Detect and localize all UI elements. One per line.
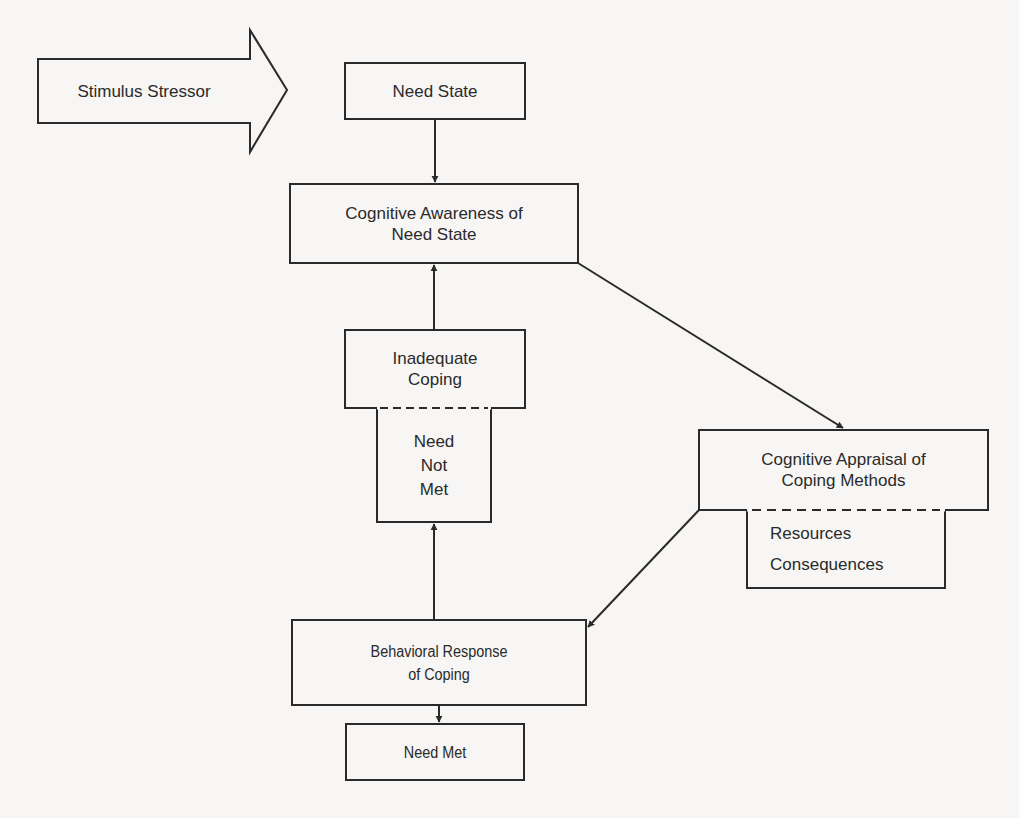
inadequate-coping-label-line-1: Inadequate bbox=[392, 348, 477, 369]
need-state-label-line-1: Need State bbox=[392, 81, 477, 102]
stimulus-label: Stimulus Stressor bbox=[38, 59, 250, 123]
need-not-met-label-line-1: Need bbox=[414, 430, 455, 454]
cognitive-awareness-label-line-1: Cognitive Awareness of bbox=[345, 203, 522, 224]
need-met-label: Need Met bbox=[355, 724, 515, 780]
inadequate-coping-label-line-2: Coping bbox=[408, 369, 462, 390]
need-not-met-label-line-3: Met bbox=[420, 478, 448, 502]
behavioral-response-label-line-2: of Coping bbox=[408, 663, 470, 686]
need-not-met-label-line-2: Not bbox=[421, 454, 447, 478]
stimulus-label-line-1: Stimulus Stressor bbox=[77, 81, 210, 102]
cognitive-awareness-label: Cognitive Awareness of Need State bbox=[290, 184, 578, 263]
consequences-label: Consequences bbox=[770, 549, 883, 580]
inadequate-coping-label: Inadequate Coping bbox=[345, 330, 525, 408]
need-met-label-line-1: Need Met bbox=[404, 742, 466, 763]
cognitive-appraisal-label-line-2: Coping Methods bbox=[782, 470, 906, 491]
behavioral-response-label: Behavioral Response of Coping bbox=[307, 620, 572, 705]
need-state-label: Need State bbox=[345, 63, 525, 119]
resources-consequences-label: Resources Consequences bbox=[770, 512, 930, 586]
cognitive-appraisal-label: Cognitive Appraisal of Coping Methods bbox=[699, 430, 988, 510]
edge-appraisal-to-behavioral bbox=[588, 510, 699, 627]
cognitive-awareness-label-line-2: Need State bbox=[391, 224, 476, 245]
resources-label: Resources bbox=[770, 518, 851, 549]
behavioral-response-label-line-1: Behavioral Response bbox=[371, 640, 508, 663]
edge-awareness-to-appraisal bbox=[578, 263, 843, 428]
cognitive-appraisal-label-line-1: Cognitive Appraisal of bbox=[761, 449, 925, 470]
need-not-met-label: Need Not Met bbox=[377, 412, 491, 520]
